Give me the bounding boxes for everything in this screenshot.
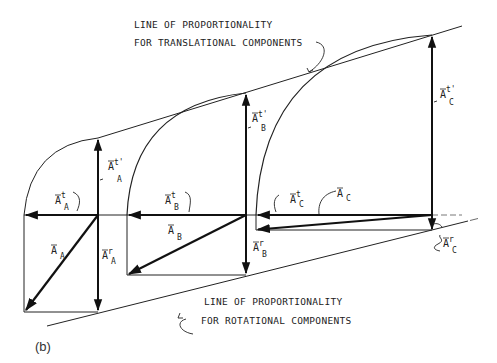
svg-text:A: A [51, 245, 57, 256]
svg-text:A: A [117, 175, 122, 184]
svg-text:A: A [60, 252, 65, 261]
leader-lines [73, 42, 442, 334]
label-a-total: A A [51, 245, 65, 261]
label-a-tangential: At A [55, 191, 69, 212]
rotational-proportionality-line [47, 221, 468, 326]
svg-text:At': At' [108, 158, 124, 172]
label-c-rotational: Ar C [443, 235, 457, 255]
svg-text:B: B [177, 233, 182, 242]
label-b-total: A B [168, 225, 182, 242]
svg-text:C: C [452, 246, 457, 255]
vector-b-total [129, 215, 246, 274]
svg-text:C: C [449, 98, 454, 107]
label-b-tangential-prime: At' B [252, 110, 268, 133]
bottom-annotation-line1: LINE OF PROPORTIONALITY [204, 296, 342, 307]
label-b-rotational: Ar B [253, 239, 267, 259]
svg-text:B: B [174, 203, 179, 212]
vector-a-total [26, 215, 98, 310]
label-a-rotational: Ar A [102, 247, 116, 266]
figure-caption: (b) [35, 339, 51, 354]
svg-text:B: B [261, 124, 266, 133]
svg-text:A: A [168, 225, 174, 236]
label-c-tangential: At C [290, 190, 304, 209]
svg-text:A: A [111, 257, 116, 266]
point-b-construction [127, 93, 246, 275]
svg-text:At': At' [252, 110, 268, 124]
acceleration-diagram: LINE OF PROPORTIONALITY FOR TRANSLATIONA… [0, 0, 497, 363]
label-a-tangential-prime: At' A [108, 158, 124, 184]
vector-c-total [258, 215, 432, 230]
label-b-tangential: At B [165, 191, 179, 212]
top-annotation-line1: LINE OF PROPORTIONALITY [134, 19, 272, 30]
arc-b [127, 93, 246, 215]
bottom-annotation-line2: FOR ROTATIONAL COMPONENTS [201, 315, 352, 326]
svg-text:A: A [337, 188, 343, 199]
svg-text:C: C [346, 194, 351, 203]
point-a-construction [24, 138, 98, 312]
top-annotation-line2: FOR TRANSLATIONAL COMPONENTS [134, 37, 303, 48]
svg-text:A: A [64, 203, 69, 212]
point-c-construction [256, 35, 432, 230]
svg-text:B: B [262, 250, 267, 259]
label-c-total: A C [337, 188, 351, 203]
label-c-tangential-prime: At' C [440, 85, 456, 107]
svg-text:C: C [299, 200, 304, 209]
